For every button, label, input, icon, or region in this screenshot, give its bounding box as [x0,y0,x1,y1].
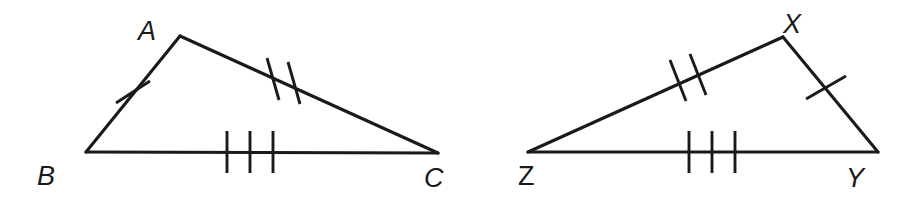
vertex-label-a: A [136,16,156,46]
geometry-figure: A B C X Y Z [0,0,906,207]
edge-ba [86,36,180,152]
tick-xy-1 [806,76,846,99]
tick-ab-1 [116,81,150,103]
vertex-label-z: Z [518,161,535,191]
vertex-label-x: X [782,9,802,39]
vertex-label-b: B [37,161,55,191]
vertex-label-c: C [424,163,444,193]
triangle-abc: A B C [37,16,444,193]
tick-ac-2 [288,62,300,104]
geometry-canvas: A B C X Y Z [0,0,906,207]
edge-zx [528,37,783,152]
edge-xy [783,37,878,152]
triangle-xyz: X Y Z [518,9,878,193]
vertex-label-y: Y [846,163,866,193]
edge-ac [180,36,438,153]
edge-bc [86,152,438,153]
